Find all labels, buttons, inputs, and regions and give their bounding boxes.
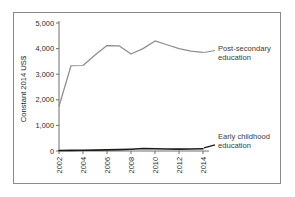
x-tick-label: 2004 bbox=[79, 157, 88, 173]
x-tick-label: 2010 bbox=[151, 157, 160, 173]
x-tick-label: 2008 bbox=[127, 157, 136, 173]
y-axis-title-text: Constant 2014 US$ bbox=[19, 55, 28, 122]
post-secondary-label-line2: education bbox=[218, 53, 251, 62]
x-tick-label: 2002 bbox=[55, 157, 64, 173]
early-childhood-label-connector bbox=[204, 145, 215, 148]
y-tick-labels: 5,0004,0003,0002,0001,0000 bbox=[36, 19, 55, 156]
post-secondary-label-line1: Post-secondary bbox=[218, 44, 271, 53]
series-line-post-secondary bbox=[59, 41, 203, 106]
series-labels: Post-secondary education Early childhood… bbox=[204, 44, 271, 149]
x-tick-label: 2014 bbox=[199, 157, 208, 173]
y-tick-label: 0 bbox=[50, 147, 54, 156]
early-childhood-label-line2: education bbox=[218, 141, 251, 150]
x-tick-label: 2012 bbox=[175, 157, 184, 173]
post-secondary-label-connector bbox=[204, 50, 215, 52]
y-tick-label: 1,000 bbox=[36, 121, 55, 130]
y-tick-label: 5,000 bbox=[36, 19, 55, 28]
chart-figure: 5,0004,0003,0002,0001,0000 2002200420062… bbox=[13, 12, 281, 184]
y-axis: 5,0004,0003,0002,0001,0000 bbox=[36, 19, 60, 156]
x-axis: 2002200420062008201020122014 bbox=[55, 151, 209, 173]
data-series-group bbox=[59, 41, 203, 151]
series-line-early-childhood bbox=[59, 149, 203, 151]
y-tick-label: 4,000 bbox=[36, 44, 55, 53]
y-axis-title: Constant 2014 US$ bbox=[19, 55, 28, 122]
y-tick-label: 2,000 bbox=[36, 95, 55, 104]
early-childhood-label-line1: Early childhood bbox=[218, 132, 270, 141]
line-chart: 5,0004,0003,0002,0001,0000 2002200420062… bbox=[14, 13, 280, 183]
x-tick-labels: 2002200420062008201020122014 bbox=[55, 157, 208, 173]
y-tick-label: 3,000 bbox=[36, 70, 55, 79]
x-tick-label: 2006 bbox=[103, 157, 112, 173]
